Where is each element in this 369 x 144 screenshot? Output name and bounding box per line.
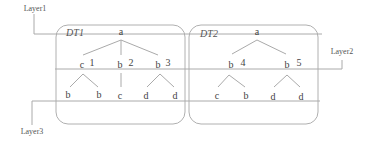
dt1-leaf-node: c (118, 91, 122, 101)
dt1-level2-node: b (118, 60, 123, 70)
dt1-level2-node: b (156, 60, 161, 70)
dt2-leaf-node: c (215, 91, 219, 101)
dt1-edge (83, 40, 121, 55)
dt1-leaf-node: d (173, 91, 178, 101)
dt2-edge (232, 40, 257, 54)
dt2-edge (257, 40, 286, 54)
layer1-label: Layer1 (24, 5, 47, 13)
dt1-node-number: 2 (129, 58, 134, 68)
dt2-node-number: 4 (241, 58, 246, 68)
layer2-label: Layer2 (331, 48, 354, 56)
dt2-node-number: 5 (297, 58, 302, 68)
dt1-level2-node: c (80, 60, 84, 70)
dt2-edge (218, 75, 229, 87)
dt2-title: DT2 (200, 29, 218, 39)
dt1-edge (147, 74, 160, 87)
dt1-root-node: a (119, 27, 123, 37)
dt2-edge (287, 75, 300, 87)
dt1-edge (121, 40, 158, 55)
dt1-edge (83, 74, 98, 87)
dt1-leaf-node: b (97, 90, 102, 100)
dt2-edge (274, 75, 287, 87)
dt1-node-number: 3 (166, 58, 171, 68)
dt1-edge (160, 74, 174, 87)
dt2-edge (229, 75, 245, 87)
diagram-canvas (0, 0, 369, 144)
dt2-leaf-node: d (299, 92, 304, 102)
dt2-leaf-node: d (271, 92, 276, 102)
dt2-root-node: a (255, 27, 259, 37)
dt1-node-number: 1 (90, 58, 95, 68)
dt1-leaf-node: b (66, 90, 71, 100)
dt1-title: DT1 (66, 28, 84, 38)
dt1-leaf-node: d (144, 91, 149, 101)
dt2-box (189, 25, 318, 124)
layer3-label: Layer3 (21, 128, 44, 136)
dt2-level2-node: b (229, 60, 234, 70)
dt1-edge (70, 74, 83, 87)
dt2-level2-node: b (285, 60, 290, 70)
dt2-leaf-node: b (244, 91, 249, 101)
